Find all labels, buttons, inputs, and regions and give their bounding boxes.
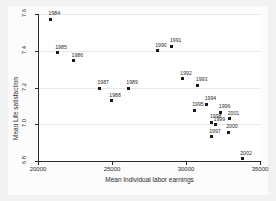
- data-point-label: 2000: [226, 123, 238, 129]
- data-point-label: 1984: [49, 10, 61, 16]
- data-point-label: 1991: [170, 37, 182, 43]
- data-point-label: 1992: [180, 70, 192, 76]
- data-point-label: 1999: [214, 116, 226, 122]
- y-tick-label: 7.6: [21, 4, 27, 22]
- x-tick-label: 35000: [243, 166, 276, 172]
- x-axis-title: Mean Individual labor earnings: [38, 176, 261, 183]
- data-point-label: 1995: [192, 101, 204, 107]
- data-point-marker: [72, 59, 75, 62]
- x-axis-line: [38, 161, 261, 162]
- y-tick: [35, 88, 38, 89]
- y-axis-title: Mean Life satisfaction: [12, 77, 19, 140]
- x-tick: [112, 162, 113, 165]
- data-point-marker: [98, 87, 101, 90]
- x-tick: [186, 162, 187, 165]
- data-point-marker: [193, 109, 196, 112]
- data-point-label: 1997: [209, 128, 221, 134]
- data-point-label: 1996: [219, 103, 231, 109]
- y-tick-label: 7.4: [21, 41, 27, 59]
- data-point-marker: [205, 103, 208, 106]
- data-point-marker: [241, 157, 244, 160]
- data-point-label: 1986: [72, 52, 84, 58]
- data-point-marker: [228, 117, 231, 120]
- data-point-marker: [210, 135, 213, 138]
- data-point-marker: [110, 99, 113, 102]
- chart-figure: 1984198519861987198819891990199119921993…: [0, 0, 276, 201]
- y-tick-label: 7.2: [21, 78, 27, 96]
- data-point-marker: [170, 45, 173, 48]
- x-tick: [38, 162, 39, 165]
- gridline-y: [38, 88, 260, 89]
- data-point-label: 1987: [97, 79, 109, 85]
- data-point-marker: [156, 49, 159, 52]
- y-tick: [35, 14, 38, 15]
- data-point-label: 2002: [240, 150, 252, 156]
- y-tick-label: 7.0: [21, 114, 27, 132]
- data-point-label: 2001: [228, 110, 240, 116]
- data-point-label: 1990: [155, 42, 167, 48]
- y-tick: [35, 51, 38, 52]
- plot-area: 1984198519861987198819891990199119921993…: [38, 14, 260, 161]
- data-point-label: 1994: [205, 95, 217, 101]
- x-tick-label: 30000: [169, 166, 203, 172]
- data-point-marker: [196, 84, 199, 87]
- data-point-label: 1993: [196, 76, 208, 82]
- data-point-marker: [181, 77, 184, 80]
- data-point-marker: [227, 131, 230, 134]
- data-point-marker: [214, 123, 217, 126]
- x-tick: [260, 162, 261, 165]
- y-tick: [35, 124, 38, 125]
- y-axis-line: [38, 14, 39, 162]
- data-point-marker: [56, 51, 59, 54]
- data-point-label: 1989: [126, 79, 138, 85]
- x-tick-label: 25000: [95, 166, 129, 172]
- x-tick-label: 20000: [21, 166, 55, 172]
- gridline-y: [38, 14, 260, 15]
- data-point-label: 1985: [55, 44, 67, 50]
- data-point-marker: [49, 18, 52, 21]
- data-point-label: 1988: [109, 92, 121, 98]
- data-point-marker: [127, 87, 130, 90]
